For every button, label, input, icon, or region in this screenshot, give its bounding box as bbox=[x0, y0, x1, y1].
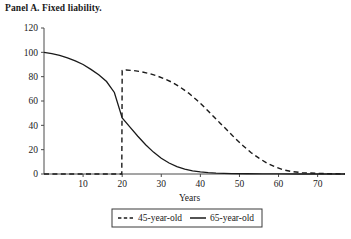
x-tick-label: 30 bbox=[157, 179, 167, 189]
y-tick-label: 120 bbox=[24, 23, 39, 33]
x-axis-tick-labels: 10203040506070 bbox=[78, 179, 322, 189]
x-axis-group: 10203040506070 Years bbox=[44, 174, 345, 203]
legend-label: 65-year-old bbox=[210, 213, 254, 223]
y-tick-label: 60 bbox=[29, 96, 39, 106]
chart-page: Panel A. Fixed liability. 02040608010012… bbox=[0, 0, 351, 239]
x-tick-label: 50 bbox=[235, 179, 245, 189]
y-tick-label: 20 bbox=[29, 145, 39, 155]
y-tick-label: 100 bbox=[24, 48, 39, 58]
x-tick-label: 60 bbox=[274, 179, 284, 189]
data-series-group bbox=[44, 52, 345, 174]
chart-legend: 45-year-old65-year-old bbox=[112, 209, 262, 227]
x-tick-label: 40 bbox=[196, 179, 206, 189]
x-tick-label: 20 bbox=[117, 179, 127, 189]
fixed-liability-line-chart: 020406080100120 10203040506070 Years 45-… bbox=[0, 0, 351, 239]
legend-label: 45-year-old bbox=[138, 213, 182, 223]
x-tick-label: 70 bbox=[313, 179, 323, 189]
y-axis-group: 020406080100120 bbox=[24, 23, 44, 179]
y-tick-label: 80 bbox=[29, 72, 39, 82]
series-line-45-year-old bbox=[44, 70, 345, 174]
x-axis-title: Years bbox=[179, 193, 201, 203]
series-line-65-year-old bbox=[44, 52, 345, 174]
y-axis-tick-labels: 020406080100120 bbox=[24, 23, 39, 179]
x-tick-label: 10 bbox=[78, 179, 88, 189]
y-tick-label: 40 bbox=[29, 121, 39, 131]
y-tick-label: 0 bbox=[33, 169, 38, 179]
